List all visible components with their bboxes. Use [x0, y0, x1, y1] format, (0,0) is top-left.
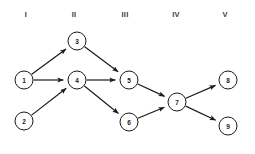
graph-node-9[interactable]: 9 [219, 117, 237, 135]
edge-7-to-9 [186, 106, 216, 120]
node-label-7: 7 [175, 99, 179, 106]
column-label-iv: IV [172, 10, 180, 19]
graph-node-2[interactable]: 2 [15, 112, 33, 130]
graph-node-5[interactable]: 5 [120, 71, 138, 89]
node-label-9: 9 [226, 123, 230, 130]
node-layer: 123456789 [15, 32, 237, 135]
edge-6-to-7 [138, 107, 165, 118]
graph-canvas: 123456789 IIIIIIIVV [0, 0, 255, 154]
column-label-i: I [25, 10, 27, 19]
column-label-layer: IIIIIIIVV [25, 10, 228, 19]
edge-3-to-5 [85, 47, 118, 72]
network-diagram: 123456789 IIIIIIIVV [0, 0, 255, 154]
node-label-8: 8 [226, 77, 230, 84]
graph-node-1[interactable]: 1 [15, 71, 33, 89]
edge-5-to-7 [138, 84, 165, 96]
column-label-v: V [222, 10, 227, 19]
graph-node-3[interactable]: 3 [68, 32, 86, 50]
graph-node-4[interactable]: 4 [68, 71, 86, 89]
graph-node-8[interactable]: 8 [219, 71, 237, 89]
graph-node-7[interactable]: 7 [168, 93, 186, 111]
edge-7-to-8 [186, 85, 216, 98]
node-label-6: 6 [127, 119, 131, 126]
edge-4-to-6 [84, 86, 118, 113]
node-label-1: 1 [22, 77, 26, 84]
graph-node-6[interactable]: 6 [120, 113, 138, 131]
node-label-4: 4 [75, 77, 79, 84]
node-label-5: 5 [127, 77, 131, 84]
column-label-ii: II [72, 10, 77, 19]
column-label-iii: III [122, 10, 129, 19]
edge-1-to-3 [32, 49, 66, 74]
edge-2-to-4 [32, 88, 67, 115]
node-label-2: 2 [22, 118, 26, 125]
node-label-3: 3 [75, 38, 79, 45]
